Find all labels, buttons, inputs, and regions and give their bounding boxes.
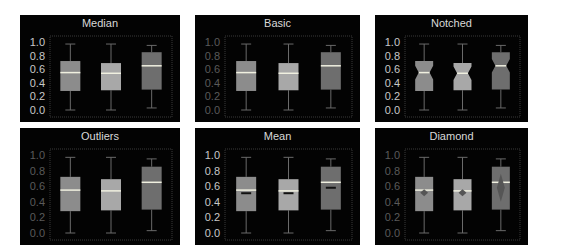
y-tick-label: 0.2: [205, 90, 220, 102]
iqr-box: [101, 63, 121, 90]
box-1: [236, 44, 256, 110]
box-3: [142, 45, 162, 108]
notched-box: [454, 63, 472, 90]
boxplot-outliers: 1.00.80.60.40.20.0: [20, 128, 180, 245]
y-tick-label: 0.4: [30, 77, 45, 89]
panel-median: Median 1.00.80.60.40.20.0: [20, 15, 180, 122]
y-tick-label: 0.2: [30, 211, 45, 223]
box-3: [321, 159, 341, 231]
y-tick-label: 0.6: [30, 63, 45, 75]
iqr-box: [60, 177, 80, 211]
box-1: [60, 44, 80, 110]
y-tick-label: 0.4: [385, 77, 400, 89]
iqr-box: [60, 61, 80, 91]
box-1: [60, 157, 80, 233]
y-tick-label: 1.0: [205, 36, 220, 48]
y-tick-label: 0.4: [205, 77, 220, 89]
y-tick-label: 0.4: [30, 196, 45, 208]
box-2: [279, 157, 299, 233]
boxplot-basic: 1.00.80.60.40.20.0: [195, 15, 360, 122]
iqr-box: [142, 167, 162, 210]
y-tick-label: 0.6: [205, 180, 220, 192]
panel-basic: Basic 1.00.80.60.40.20.0: [195, 15, 360, 122]
box-3: [321, 45, 341, 108]
y-tick-label: 1.0: [30, 149, 45, 161]
y-tick-label: 0.0: [385, 104, 400, 116]
box-3: [142, 159, 162, 231]
iqr-box: [279, 63, 299, 90]
y-tick-label: 0.6: [385, 63, 400, 75]
box-1: [236, 157, 256, 233]
y-tick-label: 0.8: [385, 165, 400, 177]
y-tick-label: 0.6: [30, 180, 45, 192]
y-tick-label: 0.2: [205, 211, 220, 223]
box-2: [101, 44, 121, 110]
y-tick-label: 0.8: [30, 50, 45, 62]
y-tick-label: 0.4: [205, 196, 220, 208]
panel-mean: Mean 1.00.80.60.40.20.0: [195, 128, 360, 245]
y-tick-label: 0.8: [30, 165, 45, 177]
notched-box: [415, 61, 433, 91]
panel-diamond: Diamond 1.00.80.60.40.20.0: [375, 128, 528, 245]
y-tick-label: 0.0: [205, 227, 220, 239]
y-tick-label: 0.8: [205, 165, 220, 177]
iqr-box: [101, 179, 121, 210]
iqr-box: [279, 179, 299, 210]
box-2: [454, 44, 472, 110]
box-3: [492, 45, 510, 108]
y-tick-label: 0.6: [385, 180, 400, 192]
box-2: [454, 157, 472, 233]
y-tick-label: 0.6: [205, 63, 220, 75]
box-3: [492, 159, 510, 231]
notched-box: [492, 52, 510, 89]
iqr-box: [321, 52, 341, 89]
y-tick-label: 0.8: [385, 50, 400, 62]
boxplot-mean: 1.00.80.60.40.20.0: [195, 128, 360, 245]
panel-notched: Notched 1.00.80.60.40.20.0: [375, 15, 528, 122]
iqr-box: [236, 61, 256, 91]
box-2: [101, 157, 121, 233]
y-tick-label: 0.2: [30, 90, 45, 102]
box-1: [415, 44, 433, 110]
boxplot-notched: 1.00.80.60.40.20.0: [375, 15, 528, 122]
y-tick-label: 0.0: [385, 227, 400, 239]
y-tick-label: 0.4: [385, 196, 400, 208]
box-2: [279, 44, 299, 110]
iqr-box: [142, 52, 162, 89]
y-tick-label: 0.0: [205, 104, 220, 116]
y-tick-label: 0.2: [385, 211, 400, 223]
y-tick-label: 1.0: [205, 149, 220, 161]
boxplot-median: 1.00.80.60.40.20.0: [20, 15, 180, 122]
boxplot-diamond: 1.00.80.60.40.20.0: [375, 128, 528, 245]
y-tick-label: 1.0: [385, 36, 400, 48]
panel-outliers: Outliers 1.00.80.60.40.20.0: [20, 128, 180, 245]
y-tick-label: 0.8: [205, 50, 220, 62]
y-tick-label: 0.0: [30, 227, 45, 239]
y-tick-label: 1.0: [30, 36, 45, 48]
box-1: [415, 157, 433, 233]
y-tick-label: 0.0: [30, 104, 45, 116]
y-tick-label: 1.0: [385, 149, 400, 161]
y-tick-label: 0.2: [385, 90, 400, 102]
